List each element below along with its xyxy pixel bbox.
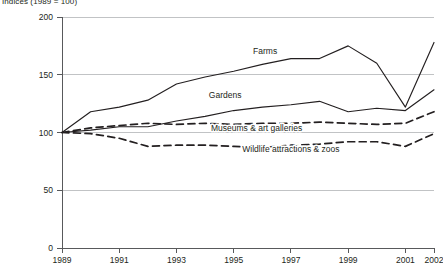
y-axis-labels: 050100150200 [39, 12, 53, 253]
x-axis-labels: 19891991199319951997199920012002 [53, 255, 443, 265]
line-chart-plot: 050100150200 198919911993199519971999200… [0, 0, 443, 269]
y-axis-tick-label: 150 [39, 70, 53, 80]
series-label-gardens: Gardens [209, 90, 242, 100]
series-label-wildlife-attractions-zoos: Wildlife attractions & zoos [242, 144, 339, 154]
series-label-farms: Farms [253, 46, 277, 56]
series-label-museums-art-galleries: Museums & art galleries [211, 123, 302, 133]
chart-container: Indices (1989 = 100) 050100150200 198919… [0, 0, 443, 269]
x-axis-tick-label: 1989 [53, 255, 72, 265]
series-line-farms [62, 42, 434, 132]
x-axis-tick-label: 1999 [339, 255, 358, 265]
y-axis-tick-label: 100 [39, 128, 53, 138]
x-axis-tick-label: 2002 [425, 255, 443, 265]
x-axis-tick-label: 2001 [396, 255, 415, 265]
x-axis-tick-label: 1993 [167, 255, 186, 265]
x-axis-tick-label: 1991 [110, 255, 129, 265]
y-axis-tick-label: 200 [39, 12, 53, 22]
axis-ticks [57, 17, 434, 253]
y-axis-tick-label: 0 [48, 243, 53, 253]
x-axis-tick-label: 1995 [224, 255, 243, 265]
gridlines [62, 17, 434, 190]
x-axis-tick-label: 1997 [281, 255, 300, 265]
y-axis-tick-label: 50 [44, 185, 54, 195]
